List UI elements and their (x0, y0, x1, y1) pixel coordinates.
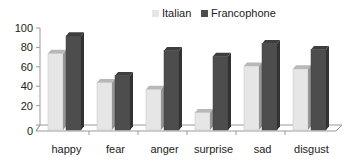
x-category-label: disgust (294, 143, 329, 155)
bar-top (311, 46, 329, 50)
bar-italian-sad (244, 66, 259, 130)
bar-francophone-sad (262, 44, 277, 130)
bar-top (48, 50, 66, 54)
y-tick-label: 60 (21, 61, 33, 73)
x-category-label: surprise (194, 143, 233, 155)
y-tick-label: 20 (21, 100, 33, 112)
bar-italian-anger (146, 89, 161, 130)
bar-francophone-happy (66, 36, 81, 130)
bar-side (63, 50, 66, 130)
bar-top (97, 79, 115, 83)
bar-top (195, 109, 213, 113)
y-tick-label: 100 (15, 22, 33, 34)
bar-side (308, 65, 311, 130)
legend-label: Italian (162, 7, 191, 19)
bar-francophone-disgust (311, 50, 326, 130)
bar-top (115, 72, 133, 76)
bar-francophone-surprise (213, 56, 228, 130)
chart-canvas: 020406080100happyfearangersurprisesaddis… (0, 0, 359, 161)
bar-side (259, 62, 262, 130)
y-tick-label: 40 (21, 80, 33, 92)
bar-chart: 020406080100happyfearangersurprisesaddis… (0, 0, 359, 161)
bar-side (210, 109, 213, 130)
legend-label: Francophone (211, 7, 276, 19)
bar-top (213, 53, 231, 57)
legend-swatch-francophone (201, 10, 208, 17)
x-category-label: sad (254, 143, 272, 155)
bar-side (161, 86, 164, 130)
bar-italian-fear (97, 83, 112, 131)
bar-top (164, 47, 182, 51)
bar-italian-happy (48, 53, 63, 130)
bar-side (130, 72, 133, 130)
bar-side (81, 32, 84, 130)
bar-side (179, 47, 182, 130)
bar-side (112, 79, 115, 130)
bar-italian-disgust (293, 69, 308, 130)
bar-side (277, 40, 280, 130)
x-category-label: anger (150, 143, 178, 155)
bar-francophone-anger (164, 50, 179, 130)
bar-top (244, 62, 262, 66)
bar-side (228, 53, 231, 130)
bar-francophone-fear (115, 76, 130, 130)
bar-top (146, 86, 164, 90)
y-tick-label: 80 (21, 41, 33, 53)
y-tick-label: 0 (27, 125, 33, 137)
x-category-label: fear (106, 143, 125, 155)
x-category-label: happy (52, 143, 82, 155)
bar-italian-surprise (195, 113, 210, 130)
bar-top (66, 32, 84, 36)
bar-top (293, 65, 311, 69)
bar-top (262, 40, 280, 44)
bar-side (326, 46, 329, 130)
legend-swatch-italian (152, 10, 159, 17)
